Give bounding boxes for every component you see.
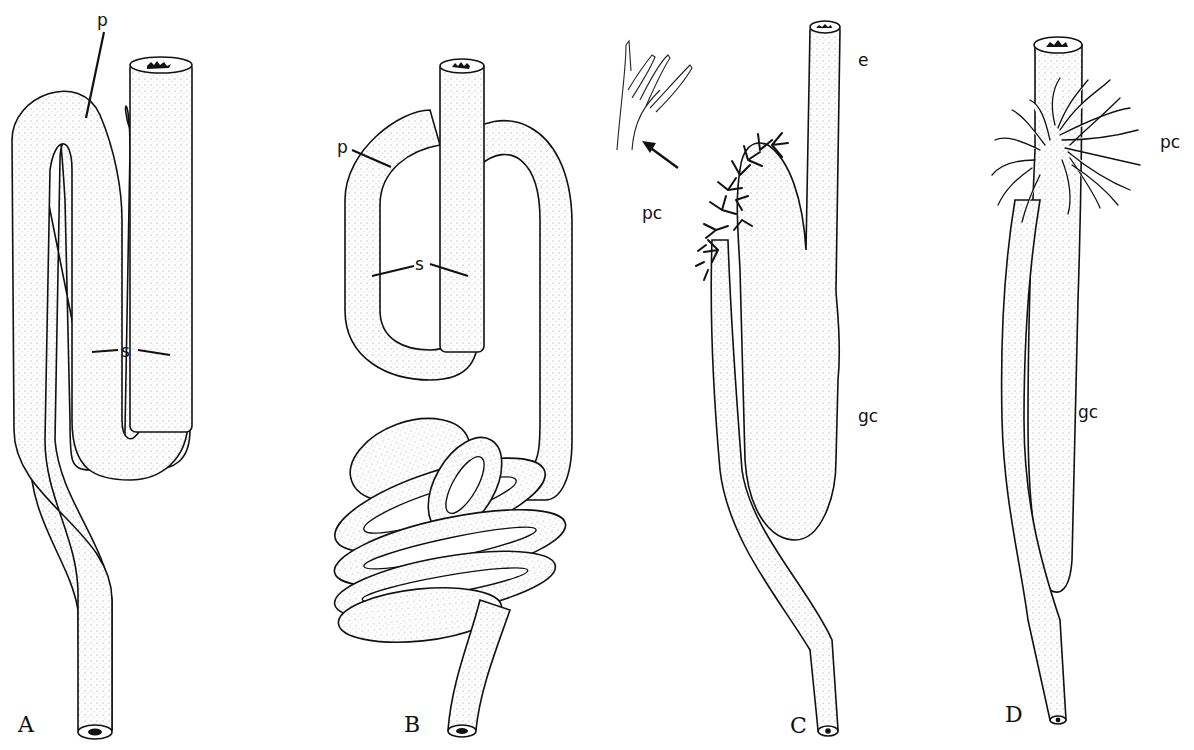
- label-d-gc: gc: [1078, 402, 1098, 422]
- tube-b-knot: [325, 403, 572, 649]
- lumen-a-bottom: [88, 729, 102, 736]
- lumen-c-bottom: [825, 728, 831, 734]
- inset-arrow: [648, 146, 678, 168]
- panel-b: p s B: [325, 59, 572, 737]
- label-c-e: e: [858, 50, 868, 70]
- label-b-s: s: [415, 254, 424, 274]
- tube-a-straight: [130, 62, 192, 432]
- gland-body-d: [1028, 45, 1082, 592]
- label-d-pc: pc: [1160, 132, 1180, 152]
- panel-d: pc gc D: [992, 37, 1180, 727]
- label-a-s: s: [121, 341, 130, 361]
- lumen-b-bottom: [456, 728, 468, 734]
- panel-c: pc e gc C: [617, 21, 878, 738]
- panel-a: p s A: [12, 10, 192, 739]
- label-c-pc: pc: [642, 203, 662, 223]
- inset-branch-tip: [617, 41, 692, 150]
- label-a-p: p: [97, 10, 108, 30]
- tube-b-straight: [440, 62, 484, 352]
- panel-label-b: B: [404, 712, 420, 737]
- lumen-d-bottom: [1056, 718, 1061, 723]
- gland-body-c: [737, 25, 840, 540]
- label-c-gc: gc: [858, 406, 878, 426]
- panel-label-d: D: [1005, 702, 1023, 727]
- label-b-p: p: [337, 137, 348, 157]
- panel-label-a: A: [17, 712, 35, 737]
- panel-label-c: C: [790, 713, 807, 738]
- figure-canvas: p s A: [0, 0, 1194, 750]
